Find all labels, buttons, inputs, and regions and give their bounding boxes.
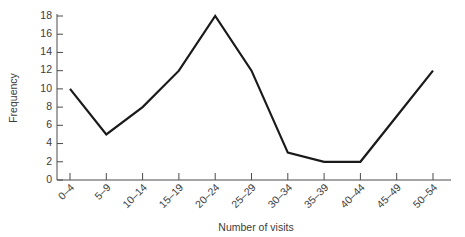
y-tick-label: 6 (46, 118, 52, 130)
y-tick-label: 8 (46, 100, 52, 112)
frequency-polygon-chart: 0246810121416180–45–910–1415–1920–2425–2… (0, 0, 465, 237)
x-tick-label: 45–49 (374, 181, 403, 210)
y-axis-title: Frequency (7, 72, 19, 122)
x-tick-label: 10–14 (120, 181, 149, 210)
y-tick-label: 2 (46, 155, 52, 167)
x-tick-label: 0–4 (56, 181, 77, 202)
y-tick-label: 16 (40, 27, 52, 39)
axes-group (57, 14, 451, 180)
y-tick-label: 10 (40, 82, 52, 94)
y-tick-label: 18 (40, 9, 52, 21)
y-tick-label: 14 (40, 45, 52, 57)
chart-canvas: 0246810121416180–45–910–1415–1920–2425–2… (0, 0, 465, 237)
x-tick-label: 35–39 (301, 181, 330, 210)
y-tick-label: 0 (46, 173, 52, 185)
x-tick-label: 30–34 (265, 181, 294, 210)
y-tick-group: 024681012141618 (40, 9, 63, 185)
x-tick-label: 25–29 (229, 181, 258, 210)
x-tick-label: 40–44 (338, 181, 367, 210)
x-axis-title: Number of visits (218, 221, 293, 233)
frequency-line-series (70, 16, 433, 162)
x-tick-group: 0–45–910–1415–1920–2425–2930–3435–3940–4… (56, 173, 440, 210)
x-tick-label: 5–9 (92, 181, 113, 202)
x-tick-label: 50–54 (410, 181, 439, 210)
y-tick-label: 4 (46, 136, 52, 148)
y-tick-label: 12 (40, 63, 52, 75)
x-tick-label: 15–19 (156, 181, 185, 210)
x-tick-label: 20–24 (192, 181, 221, 210)
